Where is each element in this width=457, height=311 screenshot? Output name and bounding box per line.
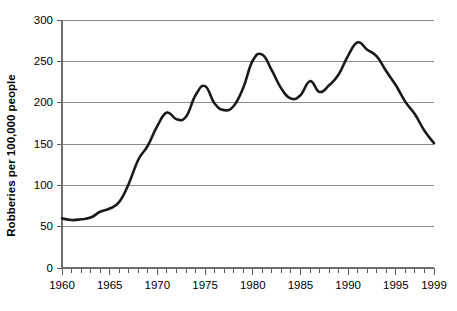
y-tick-label-300: 300: [34, 14, 53, 26]
robbery-rate-series-line: [62, 42, 434, 220]
x-tick-label-1975: 1975: [192, 279, 218, 291]
x-tick-label-1960: 1960: [49, 279, 75, 291]
y-tick-label-50: 50: [40, 220, 53, 232]
x-tick-label-1995: 1995: [383, 279, 409, 291]
y-tick-label-0: 0: [47, 262, 53, 274]
y-axis-tick-labels: 050100150200250300: [34, 14, 53, 274]
x-axis-ticks: [62, 268, 434, 275]
y-tick-label-150: 150: [34, 138, 53, 150]
gridlines: [62, 20, 434, 227]
y-tick-label-250: 250: [34, 55, 53, 67]
chart-container: Robberies per 100,000 people 05010015020…: [0, 0, 457, 311]
x-tick-label-1980: 1980: [240, 279, 266, 291]
y-tick-label-100: 100: [34, 179, 53, 191]
y-axis-ticks: [57, 20, 62, 268]
x-tick-label-1970: 1970: [145, 279, 171, 291]
x-tick-label-1965: 1965: [97, 279, 123, 291]
x-tick-label-1999: 1999: [421, 279, 447, 291]
y-tick-label-200: 200: [34, 96, 53, 108]
x-tick-label-1990: 1990: [335, 279, 361, 291]
x-axis-tick-labels: 196019651970197519801985199019951999: [49, 279, 447, 291]
line-chart-plot: 050100150200250300 196019651970197519801…: [0, 0, 457, 311]
x-tick-label-1985: 1985: [288, 279, 314, 291]
